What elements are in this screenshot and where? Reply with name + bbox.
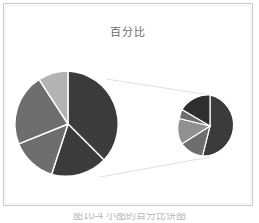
figure-page: 百分比 — [0, 0, 259, 223]
figure-caption-wrap: 图10-4 小图的百分比饼图 — [0, 213, 259, 223]
pie-chart-plot — [4, 4, 253, 206]
figure-caption: 图10-4 小图的百分比饼图 — [0, 213, 259, 222]
main-pie — [15, 71, 118, 176]
secondary-pie — [178, 95, 234, 156]
chart-panel: 百分比 — [3, 3, 253, 206]
